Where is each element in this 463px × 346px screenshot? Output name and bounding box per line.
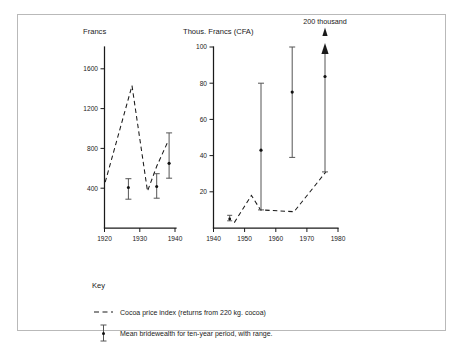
right-y-ticks: 20 40 60 80 100	[196, 43, 214, 195]
left-x-tick-label-1930: 1930	[132, 235, 147, 242]
key-entry-cocoa-price: Cocoa price index (returns from 220 kg. …	[94, 309, 266, 317]
right-errorbar-1955	[258, 83, 264, 210]
left-y-axis-title: Francs	[83, 27, 106, 36]
left-errorbar-1935	[154, 174, 160, 199]
right-x-tick-label-1980: 1980	[331, 235, 346, 242]
left-x-tick-label-1940: 1940	[168, 235, 183, 242]
right-errorbar-1965	[289, 47, 295, 157]
key-entry-cocoa-price-label: Cocoa price index (returns from 220 kg. …	[120, 309, 266, 317]
left-y-tick-label-1200: 1200	[83, 105, 98, 112]
left-y-ticks: 400 800 1200 1600	[83, 65, 104, 191]
key-title: Key	[92, 281, 105, 290]
left-y-tick-label-400: 400	[87, 185, 98, 192]
right-y-tick-label-80: 80	[200, 80, 208, 87]
left-x-ticks: 1920 1930 1940	[97, 228, 183, 242]
up-arrow-icon	[321, 43, 328, 54]
right-y-tick-label-40: 40	[200, 152, 208, 159]
left-panel: Francs 400 800 1200 1600 1920	[83, 27, 183, 242]
left-y-tick-label-800: 800	[87, 145, 98, 152]
annotation-arrow-icon	[322, 28, 327, 37]
right-x-tick-label-1940: 1940	[206, 235, 221, 242]
key-entry-bridewealth-label: Mean bridewealth for ten-year period, wi…	[120, 330, 273, 338]
right-y-axis-title: Thous. Francs (CFA)	[183, 27, 254, 36]
error-bar-icon	[101, 325, 107, 341]
right-errorbar-1976-clipped	[321, 43, 328, 172]
figure-root: Francs 400 800 1200 1600 1920	[0, 0, 463, 346]
left-y-tick-label-1600: 1600	[83, 65, 98, 72]
annotation-200-thousand: 200 thousand	[303, 17, 347, 36]
key-entry-bridewealth: Mean bridewealth for ten-year period, wi…	[101, 325, 273, 341]
right-errorbar-1945	[227, 215, 232, 221]
left-cocoa-price-line	[105, 86, 168, 192]
right-x-tick-label-1950: 1950	[237, 235, 252, 242]
right-y-tick-label-100: 100	[196, 43, 207, 50]
annotation-200-thousand-label: 200 thousand	[303, 17, 347, 26]
left-errorbar-1938	[166, 133, 172, 178]
right-panel: Thous. Francs (CFA) 20 40 60 80 100	[183, 17, 347, 242]
right-y-tick-label-60: 60	[200, 116, 208, 123]
right-y-tick-label-20: 20	[200, 188, 208, 195]
chart-canvas: Francs 400 800 1200 1600 1920	[0, 0, 463, 346]
key-block: Key Cocoa price index (returns from 220 …	[92, 281, 273, 341]
left-errorbar-1927	[125, 179, 131, 200]
right-x-tick-label-1960: 1960	[268, 235, 283, 242]
right-cocoa-price-line	[234, 172, 326, 223]
left-x-tick-label-1920: 1920	[97, 235, 112, 242]
right-x-ticks: 1940 1950 1960 1970 1980	[206, 228, 346, 242]
right-x-tick-label-1970: 1970	[300, 235, 315, 242]
